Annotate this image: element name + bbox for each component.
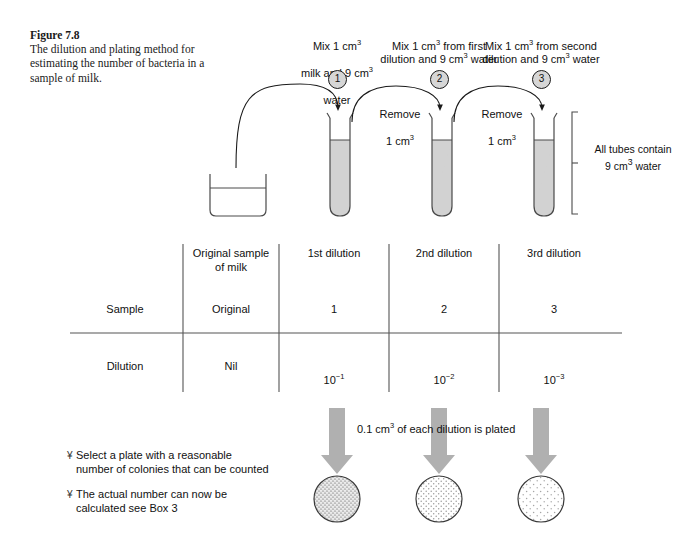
step-number-2-badge: 2 [430,70,449,89]
table-header-1st-dilution: 1st dilution [281,247,387,261]
test-tube-1 [327,113,353,216]
plate-3rd-dilution [518,476,564,522]
annotation-bullet-icon: ¥ [67,488,73,502]
annotation-bullet-icon: ¥ [67,449,73,463]
table-cell-sample-original: Original [185,303,277,317]
step-3-mix-label: Mix 1 cm3 from second dilution and 9 cm3… [476,26,606,67]
plate-2nd-dilution [416,476,462,522]
figure-caption-title: Figure 7.8 [30,28,205,42]
table-header-3rd-dilution: 3rd dilution [501,247,607,261]
annotation-select-plate: ¥ Select a plate with a reasonable numbe… [76,448,336,476]
table-header-2nd-dilution: 2nd dilution [391,247,497,261]
table-cell-dilution-2: 10−2 [391,360,497,387]
table-cell-dilution-1: 10−1 [281,360,387,387]
table-row-label-sample: Sample [70,303,180,317]
table-header-original-sample: Original sample of milk [185,247,277,274]
table-cell-sample-3: 3 [501,303,607,317]
all-tubes-contain-note: All tubes contain 9 cm3 water [583,143,683,173]
table-cell-dilution-nil: Nil [185,360,277,374]
figure-caption: Figure 7.8 The dilution and plating meth… [30,28,205,85]
all-tubes-bracket [572,112,578,214]
plating-arrow-2 [423,408,455,474]
plating-arrow-3 [525,408,557,474]
figure-root: Figure 7.8 The dilution and plating meth… [0,0,694,547]
table-cell-sample-2: 2 [391,303,497,317]
table-cell-dilution-3: 10−3 [501,360,607,387]
remove-label-2: Remove 1 cm3 [467,94,537,148]
step-number-1-badge: 1 [328,70,347,89]
table-cell-sample-1: 1 [281,303,387,317]
table-row-label-dilution: Dilution [70,360,180,374]
annotation-actual-number: ¥ The actual number can now be calculate… [76,487,336,515]
beaker-original-sample [210,174,266,216]
plating-volume-note: 0.1 cm3 of each dilution is plated [357,423,515,435]
remove-label-1: Remove 1 cm3 [365,94,435,148]
step-number-3-badge: 3 [532,70,551,89]
figure-caption-body: The dilution and plating method for esti… [30,42,205,85]
